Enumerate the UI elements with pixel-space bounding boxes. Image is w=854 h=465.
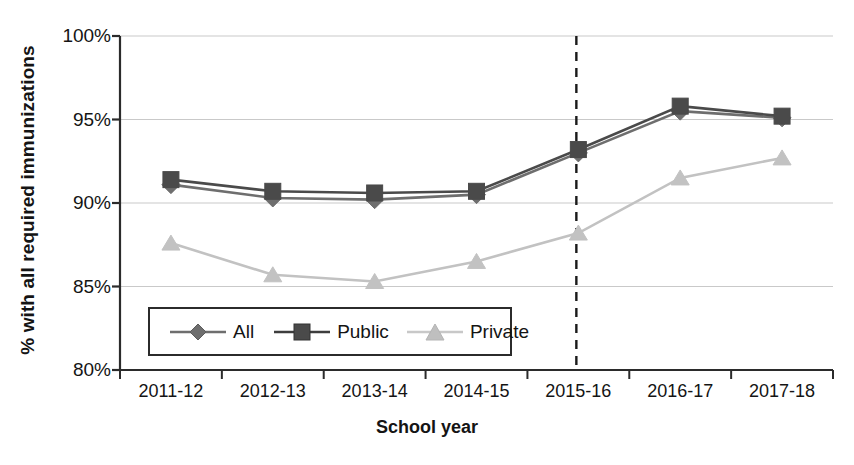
data-series-layer (162, 98, 791, 288)
chart-legend: All Public Private (148, 307, 512, 356)
series-private (162, 150, 791, 289)
x-tick-label: 2017-18 (749, 381, 815, 402)
x-tick-label: 2014-15 (443, 381, 509, 402)
triangle-marker-icon (773, 150, 791, 165)
triangle-marker-icon (569, 225, 587, 240)
square-marker-icon (672, 98, 688, 114)
legend-item-public: Public (272, 321, 393, 343)
square-marker-icon (163, 172, 179, 188)
square-marker-icon (265, 183, 281, 199)
x-tick-label: 2012-13 (240, 381, 306, 402)
legend-item-all: All (168, 321, 258, 343)
triangle-marker-icon (405, 321, 465, 343)
legend-label-private: Private (470, 321, 529, 343)
square-marker-icon (570, 142, 586, 158)
plot-canvas (0, 0, 854, 465)
y-axis-ticks (112, 36, 120, 370)
series-public (163, 98, 790, 201)
diamond-marker-icon (168, 321, 228, 343)
legend-label-public: Public (337, 321, 389, 343)
x-tick-label: 2016-17 (647, 381, 713, 402)
x-tick-label: 2013-14 (342, 381, 408, 402)
immunization-line-chart: % with all required immunizations 100% 9… (0, 0, 854, 465)
triangle-marker-icon (162, 235, 180, 250)
square-marker-icon (272, 321, 332, 343)
square-marker-icon (367, 185, 383, 201)
x-axis-title: School year (0, 417, 854, 438)
x-tick-label: 2011-12 (139, 381, 204, 402)
legend-item-private: Private (405, 321, 533, 343)
x-tick-label: 2015-16 (545, 381, 611, 402)
x-axis-ticks (120, 370, 833, 379)
square-marker-icon (774, 108, 790, 124)
legend-label-all: All (233, 321, 254, 343)
square-marker-icon (469, 183, 485, 199)
